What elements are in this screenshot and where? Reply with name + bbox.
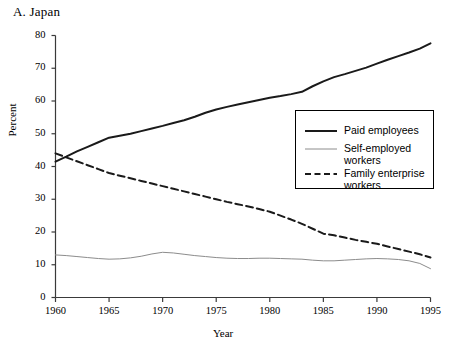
x-tick-label: 1975	[196, 305, 236, 316]
series-line-2	[56, 252, 431, 268]
x-tick-label: 1995	[411, 305, 451, 316]
legend-entry-label-1: Paid employees	[344, 124, 419, 136]
x-tick-label: 1965	[89, 305, 129, 316]
y-tick-label: 60	[20, 94, 46, 105]
x-tick-label: 1985	[303, 305, 343, 316]
y-tick-label: 80	[20, 29, 46, 40]
x-tick-label: 1970	[143, 305, 183, 316]
y-tick-label: 40	[20, 160, 46, 171]
chart-legend: Paid employeesSelf-employed workersFamil…	[295, 110, 434, 189]
legend-entry-label-3: Family enterprise workers	[344, 167, 425, 191]
y-tick-label: 30	[20, 192, 46, 203]
chart-figure: A. Japan Percent Year 01020304050607080 …	[0, 0, 456, 348]
y-tick-label: 20	[20, 225, 46, 236]
x-tick-label: 1980	[250, 305, 290, 316]
y-tick-label: 10	[20, 258, 46, 269]
legend-entry-label-2: Self-employed workers	[344, 142, 411, 166]
y-tick-label: 50	[20, 127, 46, 138]
y-tick-label: 70	[20, 61, 46, 72]
x-tick-label: 1960	[36, 305, 76, 316]
y-tick-label: 0	[20, 291, 46, 302]
x-tick-label: 1990	[357, 305, 397, 316]
